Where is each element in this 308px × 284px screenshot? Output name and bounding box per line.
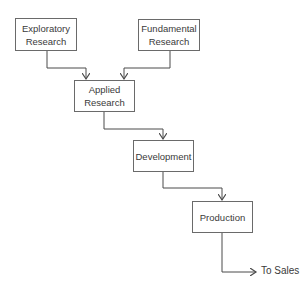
edge-development-production <box>163 171 222 200</box>
edge-exploratory-applied <box>47 50 86 79</box>
node-label-line: Production <box>200 211 245 224</box>
node-label-line: Research <box>22 35 70 48</box>
edge-fundamental-applied <box>124 50 170 79</box>
node-fundamental-research: Fundamental Research <box>138 19 200 51</box>
node-label-line: Development <box>136 150 192 163</box>
node-applied-research: Applied Research <box>74 80 135 112</box>
node-label-line: Research <box>84 96 125 109</box>
node-development: Development <box>133 140 194 172</box>
output-label-to-sales: To Sales <box>261 265 299 276</box>
node-label-line: Applied <box>84 83 125 96</box>
node-label-line: Exploratory <box>22 22 70 35</box>
node-exploratory-research: Exploratory Research <box>15 18 77 51</box>
edge-production-sales <box>222 232 256 272</box>
node-production: Production <box>192 201 253 233</box>
node-label-line: Fundamental <box>141 22 196 35</box>
node-label-line: Research <box>141 35 196 48</box>
edge-applied-development <box>104 111 163 139</box>
